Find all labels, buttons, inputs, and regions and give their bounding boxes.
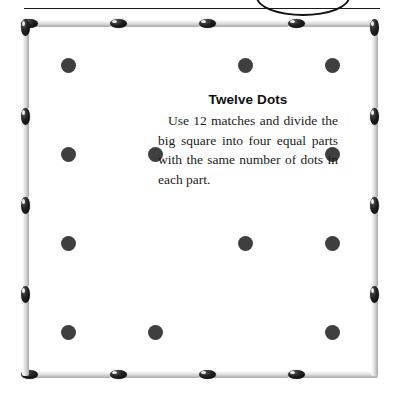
match-head-left-2	[21, 108, 30, 125]
match-head-highlight	[290, 371, 295, 374]
matchstick-square	[22, 20, 378, 378]
dot-r3c3	[325, 236, 340, 251]
match-head-bottom-3	[199, 370, 216, 379]
dot-r4c2	[148, 325, 163, 340]
match-head-highlight	[201, 371, 206, 374]
match-head-highlight	[290, 20, 295, 23]
match-head-top-4	[288, 19, 305, 28]
match-head-highlight	[22, 199, 25, 204]
match-head-highlight	[22, 288, 25, 293]
puzzle-description: Use 12 matches and divide the big square…	[158, 111, 338, 189]
match-head-right-4	[370, 286, 379, 303]
puzzle-page: Twelve Dots Use 12 matches and divide th…	[0, 0, 398, 401]
match-head-right-3	[370, 197, 379, 214]
match-head-highlight	[22, 110, 25, 115]
match-head-left-4	[21, 286, 30, 303]
match-head-bottom-2	[110, 370, 127, 379]
match-head-highlight	[371, 110, 374, 115]
match-head-highlight	[371, 21, 374, 26]
dot-r1c2	[238, 58, 253, 73]
puzzle-title: Twelve Dots	[158, 92, 338, 107]
dot-r1c1	[61, 58, 76, 73]
match-head-right-1	[370, 19, 379, 36]
dot-r3c1	[61, 236, 76, 251]
match-head-highlight	[112, 20, 117, 23]
match-head-highlight	[201, 20, 206, 23]
puzzle-text-block: Twelve Dots Use 12 matches and divide th…	[158, 92, 338, 189]
match-head-right-2	[370, 108, 379, 125]
dot-r1c3	[325, 58, 340, 73]
dot-r4c3	[325, 325, 340, 340]
match-head-top-3	[199, 19, 216, 28]
match-head-bottom-4	[288, 370, 305, 379]
match-head-highlight	[112, 371, 117, 374]
match-head-top-2	[110, 19, 127, 28]
match-head-highlight	[22, 21, 25, 26]
match-head-highlight	[371, 199, 374, 204]
dot-r4c1	[61, 325, 76, 340]
match-head-highlight	[371, 288, 374, 293]
match-head-left-3	[21, 197, 30, 214]
curved-arc-fragment-icon	[256, 0, 350, 16]
dot-r3c2	[238, 236, 253, 251]
match-head-left-1	[21, 19, 30, 36]
dot-r2c1	[61, 147, 76, 162]
